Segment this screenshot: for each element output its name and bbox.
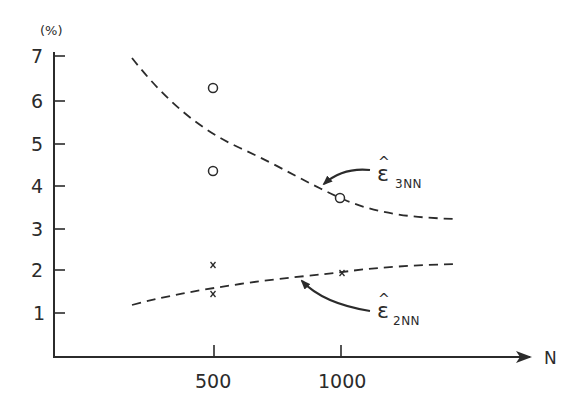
subscript-2nn: 2NN <box>393 314 420 328</box>
x-marker <box>211 262 216 268</box>
y-tick-label-1: 1 <box>33 302 45 324</box>
y-tick-labels: 7 6 5 4 3 2 1 <box>31 45 45 324</box>
error-rate-chart: (%) 7 6 5 4 3 2 1 500 1000 N <box>0 0 579 403</box>
y-axis-unit-label: (%) <box>40 23 63 38</box>
y-tick-label-5: 5 <box>31 133 43 155</box>
arrow-2nn-icon <box>302 281 370 311</box>
circle-marker <box>336 194 345 203</box>
y-axis: (%) 7 6 5 4 3 2 1 <box>31 23 65 358</box>
x-axis-name-label: N <box>544 348 557 368</box>
annotation-3nn: ε ^ 3NN <box>324 154 422 191</box>
y-tick-label-4: 4 <box>31 175 43 197</box>
y-tick-label-6: 6 <box>31 90 43 112</box>
hat-2nn: ^ <box>378 291 390 307</box>
x-tick-label-1000: 1000 <box>318 370 366 392</box>
markers-2nn <box>211 262 345 297</box>
x-tick-label-500: 500 <box>195 370 231 392</box>
x-marker <box>211 291 216 297</box>
y-ticks <box>54 56 65 313</box>
subscript-3nn: 3NN <box>395 177 422 191</box>
annotation-2nn: ε ^ 2NN <box>302 281 420 328</box>
x-axis: 500 1000 N <box>54 345 557 392</box>
arrow-3nn-icon <box>324 170 370 184</box>
y-tick-label-3: 3 <box>31 218 43 240</box>
curve-2nn-estimate <box>132 264 455 305</box>
circle-marker <box>209 84 218 93</box>
hat-3nn: ^ <box>378 154 390 170</box>
curve-3nn-estimate <box>132 58 457 219</box>
markers-3nn <box>209 84 345 203</box>
circle-marker <box>209 167 218 176</box>
y-tick-label-7: 7 <box>31 45 43 67</box>
y-tick-label-2: 2 <box>31 259 43 281</box>
